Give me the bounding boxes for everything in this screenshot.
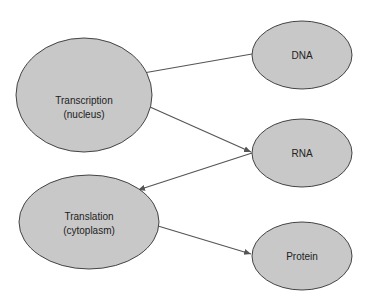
- edge-translation-to-protein: [158, 226, 251, 254]
- node-protein: Protein: [252, 222, 352, 290]
- node-dna-label: DNA: [291, 50, 312, 61]
- flow-diagram: DNA Transcription (nucleus) RNA Translat…: [0, 0, 368, 308]
- edge-dna-to-transcription: [132, 54, 252, 75]
- node-rna-label: RNA: [291, 148, 312, 159]
- diagram-canvas: DNA Transcription (nucleus) RNA Translat…: [0, 0, 368, 308]
- edge-rna-to-translation: [138, 153, 252, 190]
- node-translation: Translation (cytoplasm): [19, 175, 159, 269]
- node-transcription-label-line1: Transcription: [55, 95, 112, 106]
- node-dna: DNA: [252, 21, 352, 89]
- node-transcription-label-line2: (nucleus): [63, 109, 104, 120]
- node-rna: RNA: [252, 119, 352, 187]
- node-transcription: Transcription (nucleus): [16, 38, 152, 152]
- node-protein-label: Protein: [286, 251, 318, 262]
- node-translation-label-line2: (cytoplasm): [63, 225, 115, 236]
- edge-transcription-to-rna: [150, 107, 251, 152]
- node-translation-label-line1: Translation: [64, 211, 113, 222]
